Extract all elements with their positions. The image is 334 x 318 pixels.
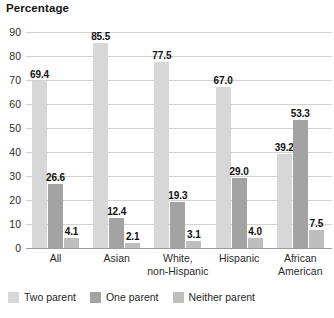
x-axis-category-label: Asian	[104, 252, 130, 265]
x-axis-category-label: Hispanic	[219, 252, 259, 265]
axis-baseline	[26, 248, 332, 249]
bar-chart: Percentage 908070605040302010069.426.64.…	[0, 0, 334, 318]
bar-value-label: 12.4	[107, 206, 126, 217]
bar-value-label: 3.1	[187, 229, 201, 240]
bar: 2.1	[125, 243, 140, 248]
y-axis-tick-label: 10	[9, 218, 21, 230]
legend-item-label: Two parent	[24, 291, 76, 303]
bar-value-label: 67.0	[214, 75, 233, 86]
bar: 19.3	[170, 202, 185, 248]
y-axis-tick-label: 90	[9, 26, 21, 38]
bar: 39.2	[277, 154, 292, 248]
bar: 3.1	[186, 241, 201, 248]
y-axis-tick-label: 30	[9, 170, 21, 182]
bar: 53.3	[293, 120, 308, 248]
bar-value-label: 4.1	[65, 226, 79, 237]
x-axis-category-label: AfricanAmerican	[278, 252, 322, 277]
legend: Two parentOne parentNeither parent	[8, 291, 269, 303]
bar-value-label: 7.5	[309, 218, 323, 229]
y-axis-tick-label: 60	[9, 98, 21, 110]
y-axis-tick-label: 70	[9, 74, 21, 86]
plot-area: 908070605040302010069.426.64.1All85.512.…	[26, 32, 332, 248]
bar: 29.0	[232, 178, 247, 248]
legend-item-label: Neither parent	[189, 291, 256, 303]
y-axis-tick-label: 20	[9, 194, 21, 206]
legend-swatch-icon	[90, 292, 101, 303]
y-axis-tick-label: 80	[9, 50, 21, 62]
legend-item[interactable]: Two parent	[8, 291, 76, 303]
bar: 4.0	[248, 238, 263, 248]
y-axis-tick-label: 40	[9, 146, 21, 158]
legend-swatch-icon	[173, 292, 184, 303]
legend-item[interactable]: One parent	[90, 291, 159, 303]
bar-value-label: 4.0	[248, 226, 262, 237]
bar: 12.4	[109, 218, 124, 248]
legend-swatch-icon	[8, 292, 19, 303]
bar: 69.4	[32, 81, 47, 248]
bar: 67.0	[216, 87, 231, 248]
bar-value-label: 2.1	[126, 231, 140, 242]
bar-value-label: 26.6	[46, 172, 65, 183]
bar: 4.1	[64, 238, 79, 248]
bar: 7.5	[309, 230, 324, 248]
x-axis-category-label: All	[50, 252, 62, 265]
bar-group: 85.512.42.1Asian	[87, 32, 148, 248]
bar-group: 39.253.37.5AfricanAmerican	[271, 32, 332, 248]
bar-value-label: 19.3	[168, 190, 187, 201]
x-axis-category-label: White,non-Hispanic	[147, 252, 208, 277]
bar-group: 67.029.04.0Hispanic	[210, 32, 271, 248]
legend-item[interactable]: Neither parent	[173, 291, 256, 303]
bar-value-label: 69.4	[30, 69, 49, 80]
bar: 77.5	[154, 62, 169, 248]
bar-group: 77.519.33.1White,non-Hispanic	[148, 32, 209, 248]
y-axis-tick-label: 0	[15, 242, 21, 254]
page-title: Percentage	[6, 2, 69, 14]
bar-value-label: 39.2	[275, 142, 294, 153]
bar-value-label: 53.3	[291, 108, 310, 119]
bar-value-label: 29.0	[230, 166, 249, 177]
y-axis-tick-label: 50	[9, 122, 21, 134]
bar: 26.6	[48, 184, 63, 248]
bar-value-label: 77.5	[152, 50, 171, 61]
legend-item-label: One parent	[106, 291, 159, 303]
bar-value-label: 85.5	[91, 31, 110, 42]
bar-group: 69.426.64.1All	[26, 32, 87, 248]
bar: 85.5	[93, 43, 108, 248]
